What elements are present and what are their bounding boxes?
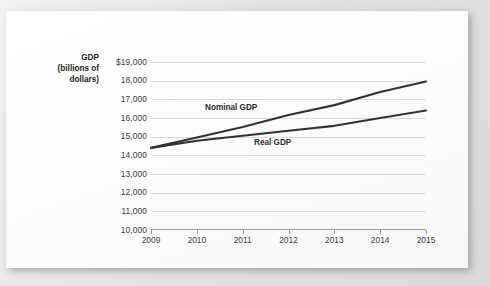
x-axis-tick-label: 2015: [417, 235, 436, 245]
x-axis-tick-label: 2012: [279, 235, 298, 245]
x-axis-tick-label: 2009: [142, 235, 161, 245]
y-axis-title-line-3: dollars): [24, 74, 99, 85]
y-axis-tick-label: 11,000: [121, 206, 147, 216]
x-axis-tick: [334, 230, 335, 234]
y-axis-title-line-1: GDP: [24, 52, 99, 63]
y-axis-tick-label: 12,000: [121, 187, 147, 197]
y-axis-tick-label: 16,000: [121, 113, 147, 123]
x-axis-tick: [380, 230, 381, 234]
y-axis-title: GDP (billions of dollars): [24, 52, 99, 86]
x-axis-tick-label: 2014: [371, 235, 390, 245]
y-axis-tick-label: 15,000: [121, 131, 147, 141]
y-axis-title-line-2: (billions of: [24, 63, 99, 74]
x-axis-tick: [197, 230, 198, 234]
series-label-real-gdp: Real GDP: [254, 138, 291, 147]
x-axis-tick: [243, 230, 244, 234]
y-axis-tick-label: 17,000: [121, 94, 147, 104]
y-axis-tick-label: 14,000: [121, 150, 147, 160]
y-axis-tick-label: 10,000: [121, 225, 147, 235]
x-axis-tick: [289, 230, 290, 234]
x-axis-tick: [151, 230, 152, 234]
x-axis-tick: [426, 230, 427, 234]
y-axis-tick-label: 13,000: [121, 169, 147, 179]
x-axis-tick-labels: 2009201020112012201320142015: [151, 235, 426, 249]
series-label-nominal-gdp: Nominal GDP: [205, 103, 257, 112]
y-axis-tick-label: 18,000: [121, 75, 147, 85]
chart-card: GDP (billions of dollars) $19,00018,0001…: [6, 11, 468, 268]
x-axis-tick-label: 2013: [325, 235, 344, 245]
x-axis-tick-label: 2011: [234, 235, 252, 245]
y-axis-tick-label: $19,000: [116, 57, 147, 67]
x-axis-tick-label: 2010: [188, 235, 207, 245]
